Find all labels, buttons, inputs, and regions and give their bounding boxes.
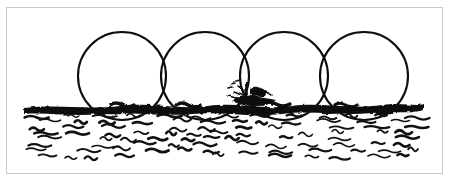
- boat-mast: [246, 82, 247, 98]
- figure-root: Pen and ink sketch: four large overlappi…: [0, 0, 450, 182]
- paper-background: [7, 8, 442, 173]
- ink-drawing-canvas: [0, 0, 450, 182]
